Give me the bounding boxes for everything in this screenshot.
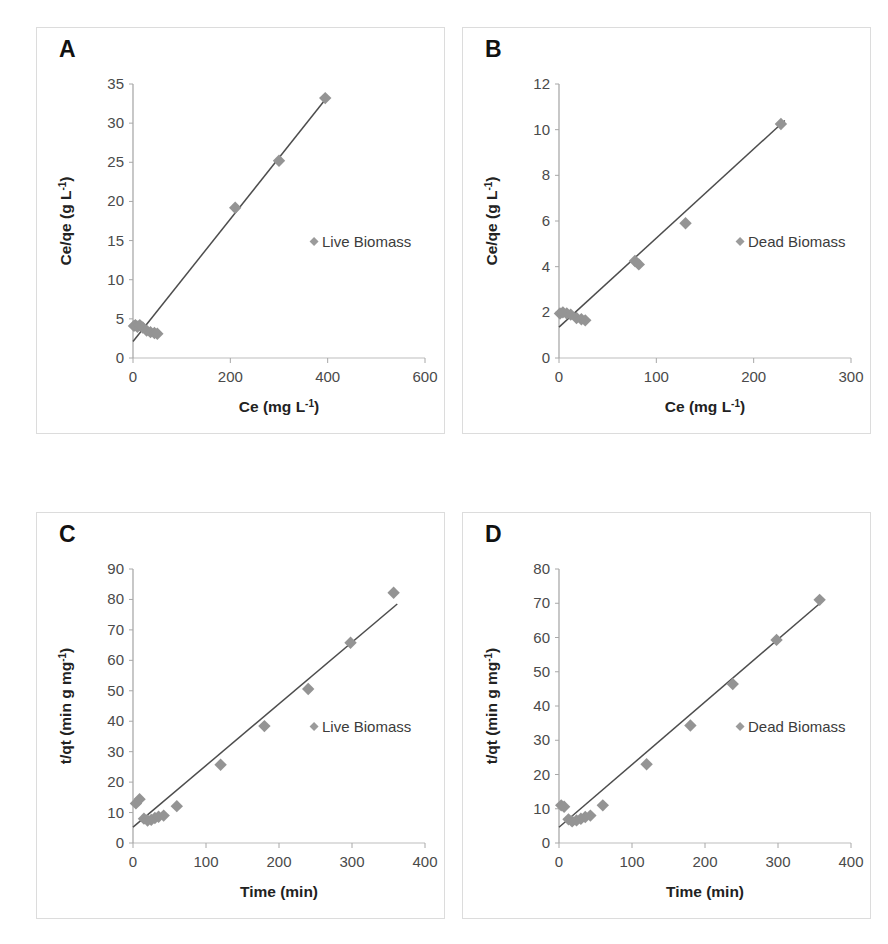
x-tick-label: 300 xyxy=(765,853,790,870)
y-axis-title: Ce/qe (g L-1) xyxy=(483,177,501,266)
chart-panel-d: D 010203040506070800100200300400Time (mi… xyxy=(462,512,871,919)
y-tick-label: 30 xyxy=(107,114,124,131)
y-tick-label: 10 xyxy=(107,804,124,821)
scatter-plot-d: 010203040506070800100200300400Time (min)… xyxy=(463,513,872,920)
data-point-marker xyxy=(640,758,652,770)
chart-panel-b: B 0246810120100200300Ce (mg L-1)Ce/qe (g… xyxy=(462,27,871,434)
x-tick-label: 400 xyxy=(838,853,863,870)
x-tick-label: 400 xyxy=(315,368,340,385)
y-tick-label: 0 xyxy=(542,349,550,366)
y-axis-title: t/qt (min g mg-1) xyxy=(57,648,75,765)
x-tick-label: 100 xyxy=(619,853,644,870)
y-tick-label: 2 xyxy=(542,303,550,320)
y-tick-label: 8 xyxy=(542,166,550,183)
data-point-marker xyxy=(387,587,399,599)
y-tick-label: 60 xyxy=(107,651,124,668)
y-tick-label: 12 xyxy=(533,75,550,92)
y-tick-label: 40 xyxy=(107,712,124,729)
scatter-plot-b: 0246810120100200300Ce (mg L-1)Ce/qe (g L… xyxy=(463,28,872,435)
x-tick-label: 200 xyxy=(266,853,291,870)
y-tick-label: 10 xyxy=(533,121,550,138)
data-point-marker xyxy=(727,678,739,690)
y-tick-label: 90 xyxy=(107,560,124,577)
x-tick-label: 600 xyxy=(412,368,437,385)
x-axis-title: Ce (mg L-1) xyxy=(665,398,745,416)
data-point-marker xyxy=(319,92,331,104)
x-tick-label: 0 xyxy=(555,853,563,870)
y-tick-label: 60 xyxy=(533,629,550,646)
y-tick-label: 0 xyxy=(116,349,124,366)
y-tick-label: 40 xyxy=(533,697,550,714)
y-tick-label: 20 xyxy=(107,192,124,209)
chart-panel-c: C 01020304050607080900100200300400Time (… xyxy=(36,512,445,919)
trendline xyxy=(133,97,328,342)
y-tick-label: 0 xyxy=(542,834,550,851)
data-point-marker xyxy=(273,155,285,167)
legend-marker-icon xyxy=(310,722,319,731)
legend-marker-icon xyxy=(310,237,319,246)
x-tick-label: 300 xyxy=(339,853,364,870)
y-tick-label: 35 xyxy=(107,75,124,92)
y-tick-label: 4 xyxy=(542,258,550,275)
x-tick-label: 300 xyxy=(838,368,863,385)
y-tick-label: 50 xyxy=(533,663,550,680)
trendline xyxy=(559,601,823,828)
legend-label: Live Biomass xyxy=(322,233,411,250)
x-tick-label: 100 xyxy=(644,368,669,385)
x-axis-title: Ce (mg L-1) xyxy=(239,398,319,416)
data-point-marker xyxy=(171,800,183,812)
y-tick-label: 10 xyxy=(107,271,124,288)
y-tick-label: 70 xyxy=(533,594,550,611)
trendline xyxy=(559,121,785,328)
data-point-marker xyxy=(302,683,314,695)
y-tick-label: 10 xyxy=(533,800,550,817)
data-point-marker xyxy=(258,720,270,732)
data-point-marker xyxy=(214,759,226,771)
y-tick-label: 30 xyxy=(533,731,550,748)
data-point-marker xyxy=(813,594,825,606)
data-point-marker xyxy=(597,799,609,811)
x-tick-label: 200 xyxy=(218,368,243,385)
legend-marker-icon xyxy=(736,722,745,731)
y-tick-label: 25 xyxy=(107,153,124,170)
x-tick-label: 100 xyxy=(193,853,218,870)
y-tick-label: 0 xyxy=(116,834,124,851)
x-tick-label: 400 xyxy=(412,853,437,870)
x-tick-label: 200 xyxy=(741,368,766,385)
y-tick-label: 20 xyxy=(107,773,124,790)
x-tick-label: 0 xyxy=(555,368,563,385)
legend-label: Dead Biomass xyxy=(748,718,846,735)
trendline xyxy=(133,604,397,827)
x-tick-label: 200 xyxy=(692,853,717,870)
legend-label: Live Biomass xyxy=(322,718,411,735)
data-point-marker xyxy=(229,201,241,213)
y-axis-title: Ce/qe (g L-1) xyxy=(57,177,75,266)
scatter-plot-c: 01020304050607080900100200300400Time (mi… xyxy=(37,513,446,920)
y-tick-label: 30 xyxy=(107,743,124,760)
y-tick-label: 15 xyxy=(107,232,124,249)
x-tick-label: 0 xyxy=(129,853,137,870)
y-tick-label: 20 xyxy=(533,766,550,783)
y-tick-label: 6 xyxy=(542,212,550,229)
legend-label: Dead Biomass xyxy=(748,233,846,250)
y-tick-label: 80 xyxy=(533,560,550,577)
figure-panel-grid: A 051015202530350200400600Ce (mg L-1)Ce/… xyxy=(0,0,888,944)
legend-marker-icon xyxy=(736,237,745,246)
chart-panel-a: A 051015202530350200400600Ce (mg L-1)Ce/… xyxy=(36,27,445,434)
scatter-plot-a: 051015202530350200400600Ce (mg L-1)Ce/qe… xyxy=(37,28,446,435)
data-point-marker xyxy=(684,719,696,731)
x-tick-label: 0 xyxy=(129,368,137,385)
y-tick-label: 80 xyxy=(107,590,124,607)
y-tick-label: 5 xyxy=(116,310,124,327)
x-axis-title: Time (min) xyxy=(240,883,318,900)
y-axis-title: t/qt (min g mg-1) xyxy=(483,648,501,765)
x-axis-title: Time (min) xyxy=(666,883,744,900)
y-tick-label: 50 xyxy=(107,682,124,699)
data-point-marker xyxy=(679,217,691,229)
y-tick-label: 70 xyxy=(107,621,124,638)
